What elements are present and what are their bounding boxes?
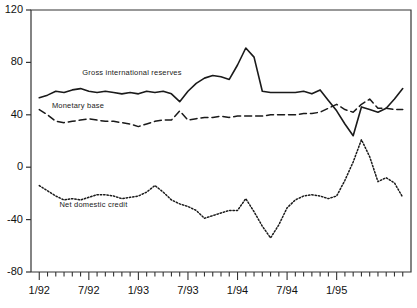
y-axis-tick-label: -80 — [7, 266, 23, 277]
series-label-2: Monetary base — [52, 101, 104, 110]
plot-frame — [31, 10, 411, 272]
series-label-1: Gross international reserves — [82, 68, 181, 77]
y-axis-tick-label: -40 — [7, 214, 23, 225]
series-label-3: Net domestic credit — [60, 200, 128, 209]
y-axis-tick-label: 80 — [11, 56, 23, 67]
y-axis-tick-label: 120 — [5, 4, 23, 15]
y-axis-tick-label: 0 — [17, 161, 23, 172]
chart-plot-svg — [0, 0, 417, 308]
series-line-3 — [39, 140, 402, 238]
x-axis-tick-label: 1/95 — [307, 285, 367, 296]
series-line-1 — [39, 48, 402, 136]
y-axis-tick-label: 40 — [11, 109, 23, 120]
chart-axes — [26, 10, 411, 280]
chart-container: 12080400-40-80 1/927/921/937/931/947/941… — [0, 0, 417, 308]
